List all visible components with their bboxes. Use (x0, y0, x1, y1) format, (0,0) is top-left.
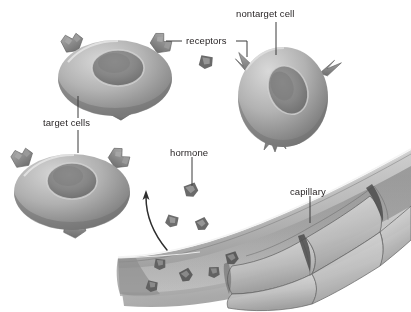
hormone-release-arrow (143, 190, 168, 250)
target-cell-lower-left (8, 143, 134, 239)
hormone-molecule (164, 213, 181, 230)
label-target-cells: target cells (43, 118, 90, 128)
nontarget-cell (235, 47, 342, 152)
hormone-molecule-near-nontarget (198, 54, 215, 71)
label-receptors: receptors (186, 36, 227, 46)
capillary-vessel (117, 149, 411, 311)
hormone-molecule (194, 216, 210, 232)
nucleus (92, 50, 144, 86)
label-capillary: capillary (290, 187, 326, 197)
hormone-molecule-labeled (183, 182, 199, 198)
figure-canvas: nontarget cell receptors target cells ho… (0, 0, 411, 312)
leader-receptors-right (236, 41, 247, 57)
label-nontarget-cell: nontarget cell (236, 9, 294, 19)
target-cell-upper-left (58, 28, 176, 121)
label-hormone: hormone (170, 148, 208, 158)
nucleus (47, 163, 97, 199)
